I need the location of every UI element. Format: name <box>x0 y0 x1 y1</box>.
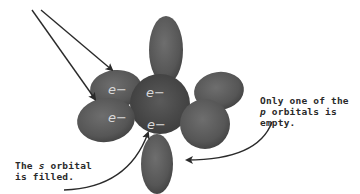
electron-label: e− <box>147 117 166 132</box>
p-orbital-lower-right-lobe <box>180 99 230 149</box>
s-orbital-annotation-line2: is filled. <box>15 171 92 182</box>
electron-label: e− <box>146 85 165 100</box>
arrow-to-lower-left-electron <box>32 10 95 99</box>
s-orbital-annotation: The s orbital is filled. <box>15 160 92 182</box>
arrow-to-upper-left-electron <box>41 10 112 70</box>
electron-label: e− <box>108 110 127 125</box>
p-orbital-bottom-lobe <box>141 134 173 194</box>
p-orbital-top-lobe <box>149 16 183 84</box>
p-orbital-annotation: Only one of the p orbitals is empty. <box>260 95 360 128</box>
electron-label: e− <box>108 82 127 97</box>
p-orbital-annotation-line1: Only one of the <box>260 95 360 106</box>
p-orbital-annotation-line2: p orbitals is empty. <box>260 106 360 128</box>
s-orbital-annotation-line1: The s orbital <box>15 160 92 171</box>
